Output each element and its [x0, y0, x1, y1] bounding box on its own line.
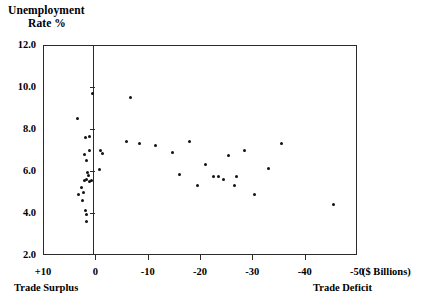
data-point — [222, 178, 225, 181]
x-axis-units-label: ($ Billions) — [362, 266, 411, 277]
y-tick-mark — [90, 87, 95, 88]
y-tick-label: 12.0 — [4, 39, 36, 50]
data-point — [82, 191, 85, 194]
x-tick-label: -40 — [285, 266, 325, 277]
trade-surplus-label: Trade Surplus — [14, 282, 78, 293]
x-tick-label: -30 — [232, 266, 272, 277]
data-point — [85, 213, 88, 216]
data-point — [87, 174, 90, 177]
data-point — [280, 142, 283, 145]
x-tick-label: +10 — [23, 266, 63, 277]
data-point — [85, 220, 88, 223]
trade-deficit-label: Trade Deficit — [313, 282, 372, 293]
data-point — [204, 163, 207, 166]
y-tick-label: 8.0 — [4, 123, 36, 134]
x-tick-mark — [200, 255, 201, 260]
x-tick-mark — [148, 255, 149, 260]
x-tick-mark — [305, 255, 306, 260]
x-tick-mark — [95, 255, 96, 260]
y-tick-mark — [90, 213, 95, 214]
data-point — [233, 184, 236, 187]
y-axis-title-line2: Rate % — [28, 17, 66, 30]
data-point — [235, 175, 238, 178]
data-point — [243, 149, 246, 152]
y-tick-mark — [90, 129, 95, 130]
data-point — [76, 117, 79, 120]
y-tick-label: 2.0 — [4, 249, 36, 260]
x-tick-label: -10 — [128, 266, 168, 277]
data-point — [212, 175, 215, 178]
y-tick-mark — [90, 171, 95, 172]
data-point — [217, 175, 220, 178]
y-axis-title-line1: Unemployment — [8, 4, 85, 17]
data-point — [88, 149, 91, 152]
scatter-chart-figure: Unemployment Rate % 2.04.06.08.010.012.0… — [0, 0, 434, 304]
x-tick-label: -20 — [180, 266, 220, 277]
data-point — [84, 136, 87, 139]
data-point — [101, 152, 104, 155]
y-tick-label: 4.0 — [4, 207, 36, 218]
data-point — [178, 173, 181, 176]
y-tick-label: 10.0 — [4, 81, 36, 92]
x-tick-label: 0 — [75, 266, 115, 277]
x-tick-mark — [252, 255, 253, 260]
data-point — [88, 135, 91, 138]
y-tick-label: 6.0 — [4, 165, 36, 176]
data-point — [171, 151, 174, 154]
data-point — [77, 193, 80, 196]
zero-vertical-axis — [93, 45, 94, 255]
